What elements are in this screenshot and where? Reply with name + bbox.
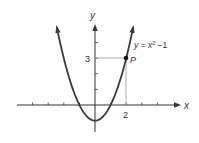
tick-label-y3: 3 (85, 54, 90, 64)
point-p-marker (124, 56, 129, 61)
y-axis-arrow-icon (92, 24, 97, 31)
parabola-chart: y x 3 2 P y = x2 −1 (0, 0, 199, 143)
x-axis-arrow-icon (174, 102, 181, 107)
y-axis-label: y (89, 10, 96, 21)
tick-label-x2: 2 (123, 110, 128, 120)
point-p-label: P (130, 55, 136, 65)
guide-lines (95, 58, 126, 105)
equation-label: y = x2 −1 (133, 40, 168, 51)
x-axis (17, 102, 181, 107)
equation-suffix: −1 (155, 40, 167, 50)
y-axis (92, 24, 98, 132)
curve-arrow-left-icon (55, 25, 60, 33)
x-axis-label: x (183, 100, 190, 111)
equation-prefix: y = x (133, 40, 153, 50)
curve-arrow-right-icon (129, 25, 134, 33)
